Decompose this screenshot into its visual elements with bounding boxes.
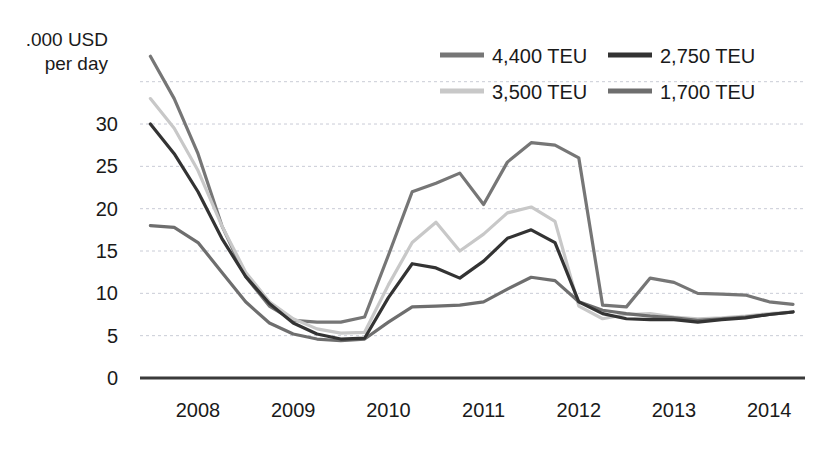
y-tick-label: 0 (107, 367, 118, 389)
legend-label: 2,750 TEU (660, 45, 755, 67)
y-axis-tick-labels: 302520151050 (96, 113, 118, 389)
x-tick-label: 2013 (652, 399, 697, 421)
x-tick-label: 2014 (747, 399, 792, 421)
x-axis-tick-labels: 2008200920102011201220132014 (176, 399, 792, 421)
y-tick-label: 30 (96, 113, 118, 135)
y-axis-title-line1: .000 USD (26, 29, 108, 50)
x-tick-label: 2008 (176, 399, 221, 421)
legend-label: 3,500 TEU (492, 81, 587, 103)
y-axis-title-line2: per day (45, 53, 109, 74)
chart-legend: 4,400 TEU2,750 TEU3,500 TEU1,700 TEU (440, 45, 755, 103)
legend-label: 4,400 TEU (492, 45, 587, 67)
y-tick-label: 10 (96, 282, 118, 304)
legend-label: 1,700 TEU (660, 81, 755, 103)
gridlines (140, 82, 805, 336)
line-chart: 302520151050 200820092010201120122013201… (0, 0, 821, 453)
x-tick-label: 2009 (271, 399, 316, 421)
series-line (150, 99, 793, 334)
chart-container: 302520151050 200820092010201120122013201… (0, 0, 821, 453)
x-tick-label: 2011 (462, 399, 505, 421)
y-tick-label: 5 (107, 325, 118, 347)
y-tick-label: 20 (96, 198, 118, 220)
x-tick-label: 2012 (557, 399, 602, 421)
y-tick-label: 15 (96, 240, 118, 262)
y-axis-title: .000 USD per day (26, 29, 109, 74)
y-tick-label: 25 (96, 155, 118, 177)
x-tick-label: 2010 (366, 399, 411, 421)
series-line (150, 124, 793, 339)
